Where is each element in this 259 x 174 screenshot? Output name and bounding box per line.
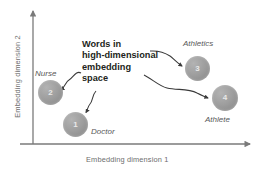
embedding-space-diagram: Embedding dimension 1 Embedding dimensio… (0, 0, 259, 174)
callout-line-1: Words in (82, 39, 148, 50)
data-point-doctor-number: 1 (73, 121, 77, 129)
callout-text: Words in high-dimensional embedding spac… (82, 39, 148, 85)
data-point-doctor-label: Doctor (91, 127, 115, 136)
x-axis-label: Embedding dimension 1 (86, 155, 168, 164)
callout-line-3: embedding (82, 62, 148, 73)
data-point-athlete: 4 (212, 85, 238, 111)
data-point-athletics-number: 3 (195, 65, 199, 73)
data-point-nurse: 2 (38, 80, 63, 105)
data-point-athletics-label: Athletics (183, 39, 213, 48)
callout-line-2: high-dimensional (82, 50, 148, 61)
data-point-athlete-number: 4 (223, 94, 227, 102)
data-point-nurse-number: 2 (48, 89, 52, 97)
y-axis-label: Embedding dimension 2 (13, 22, 22, 132)
data-point-doctor: 1 (63, 112, 88, 137)
data-point-nurse-label: Nurse (35, 69, 56, 78)
connector-to-doctor (86, 91, 96, 113)
data-point-athletics: 3 (185, 56, 210, 81)
connector-to-nurse (61, 72, 81, 90)
data-point-athlete-label: Athlete (205, 115, 230, 124)
callout-line-4: space (82, 73, 148, 84)
